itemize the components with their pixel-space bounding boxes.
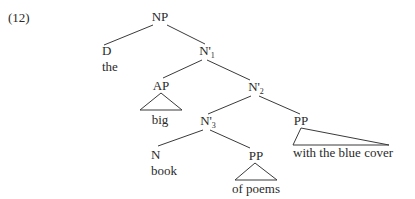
example-number: (12) <box>8 11 30 25</box>
triangle-pp-inner <box>235 163 277 180</box>
node-nbar1: N'1 <box>199 44 215 60</box>
branch-nbar1-ap <box>163 60 202 78</box>
node-pp-right: PP <box>294 114 308 128</box>
branch-nbar3-pp <box>210 130 250 148</box>
word-of-poems: of poems <box>232 182 280 196</box>
word-big: big <box>152 113 169 127</box>
branch-np-d <box>104 25 153 45</box>
branch-nbar3-n <box>158 130 203 146</box>
word-the: the <box>102 60 118 74</box>
branch-nbar2-nbar3 <box>208 96 251 114</box>
tree-branches <box>0 0 415 199</box>
node-pp-inner: PP <box>249 149 263 163</box>
word-book: book <box>151 164 177 178</box>
triangle-pp-right <box>293 128 389 145</box>
branch-nbar1-nbar2 <box>207 60 250 80</box>
node-n: N <box>151 148 160 162</box>
triangle-ap <box>140 93 182 110</box>
node-d: D <box>102 44 111 58</box>
word-with-the-blue-cover: with the blue cover <box>293 146 393 160</box>
node-nbar3: N'3 <box>200 114 216 130</box>
node-nbar2: N'2 <box>248 80 264 96</box>
branch-np-nbar1 <box>167 25 205 44</box>
node-np: NP <box>152 10 169 24</box>
branch-nbar2-pp <box>259 96 300 114</box>
node-ap: AP <box>153 79 170 93</box>
